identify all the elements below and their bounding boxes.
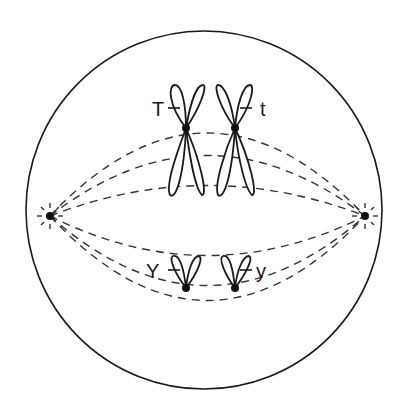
spindle-fibers-upper bbox=[50, 133, 365, 216]
allele-label-y: y bbox=[256, 260, 266, 282]
spindle-fibers-lower bbox=[50, 216, 365, 301]
chromosome-Y bbox=[168, 256, 201, 292]
chromosome-y bbox=[221, 256, 252, 292]
chromosome-T bbox=[168, 85, 204, 196]
cell-diagram: T t Y y bbox=[0, 0, 404, 407]
left-pole-icon bbox=[37, 203, 63, 229]
allele-label-t: t bbox=[260, 98, 266, 120]
allele-label-T: T bbox=[152, 98, 164, 120]
chromosome-t bbox=[216, 85, 254, 196]
allele-label-Y: Y bbox=[146, 260, 159, 282]
